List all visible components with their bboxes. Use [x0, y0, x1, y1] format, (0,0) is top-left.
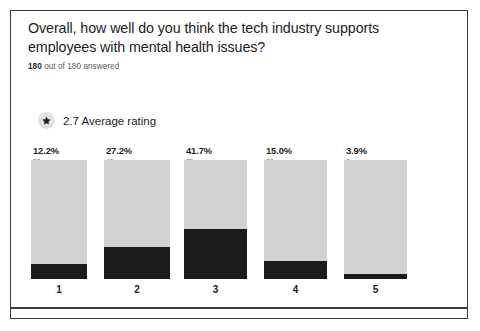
- bar-fill: [31, 264, 87, 279]
- bar-track: [264, 160, 327, 279]
- bar-track: [104, 160, 170, 279]
- bar-percent: 27.2%: [106, 145, 132, 156]
- bar-fill: [104, 247, 170, 279]
- bar-group: 3.9% 7 resp. 5: [344, 157, 407, 292]
- bar-axis-label: 5: [344, 284, 407, 295]
- bar-group: 27.2% 49 resp. 2: [104, 157, 170, 292]
- bar-percent: 15.0%: [266, 145, 292, 156]
- rating-bar-chart: 12.2% 22 resp. 1 27.2% 49 resp. 2: [11, 11, 467, 318]
- bar-percent: 41.7%: [186, 145, 212, 156]
- bar-axis-label: 4: [264, 284, 327, 295]
- bar-track: [184, 160, 247, 279]
- bar-fill: [184, 229, 247, 279]
- bar-axis-label: 2: [104, 284, 170, 295]
- bar-fill: [264, 261, 327, 279]
- bar-percent: 12.2%: [33, 145, 59, 156]
- bar-percent: 3.9%: [346, 145, 367, 156]
- bar-fill: [344, 274, 407, 279]
- bar-group: 41.7% 75 resp. 3: [184, 157, 247, 292]
- bar-axis-label: 3: [184, 284, 247, 295]
- chart-axis-line: [11, 307, 467, 309]
- survey-question-card: Overall, how well do you think the tech …: [10, 10, 468, 319]
- bar-group: 12.2% 22 resp. 1: [31, 157, 87, 292]
- bar-axis-label: 1: [31, 284, 87, 295]
- bar-group: 15.0% 27 resp. 4: [264, 157, 327, 292]
- bar-track: [31, 160, 87, 279]
- bar-track: [344, 160, 407, 279]
